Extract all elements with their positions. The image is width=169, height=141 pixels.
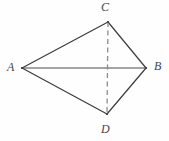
figure-svg	[0, 0, 169, 141]
vertex-point-D	[106, 113, 108, 115]
vertex-point-C	[107, 21, 109, 23]
segment-AD	[22, 68, 107, 114]
geometry-diagram: A B C D	[0, 0, 169, 141]
diagonal-CD	[107, 22, 108, 114]
vertex-label-b: B	[154, 60, 161, 72]
vertex-label-c: C	[101, 1, 109, 13]
vertex-point-A	[21, 67, 23, 69]
vertex-label-d: D	[101, 123, 110, 135]
vertex-label-a: A	[7, 61, 14, 73]
vertex-point-B	[145, 67, 147, 69]
segment-CB	[108, 22, 146, 68]
segment-DB	[107, 68, 146, 114]
segment-AC	[22, 22, 108, 68]
